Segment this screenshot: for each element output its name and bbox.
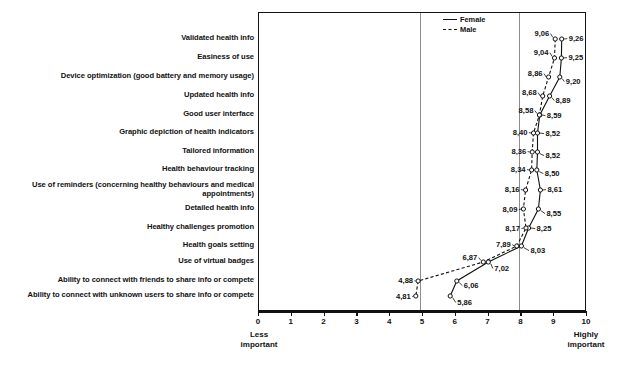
category-label: Updated health info — [184, 91, 254, 100]
x-tick-mark — [455, 311, 456, 316]
axis-endcap-left: Less important — [233, 330, 285, 349]
x-tick-mark — [389, 311, 390, 316]
category-label: Good user interface — [183, 110, 254, 119]
label-leader-line — [531, 228, 535, 229]
category-label: Healthy challenges promotion — [147, 223, 254, 232]
data-label: 8,89 — [556, 96, 571, 105]
data-label: 8,50 — [545, 169, 560, 178]
x-tick-label: 8 — [518, 317, 522, 326]
data-point — [560, 37, 564, 41]
data-label: 8,16 — [505, 185, 520, 194]
category-label: Use of virtual badges — [178, 257, 254, 266]
label-leader-line — [459, 283, 462, 286]
label-leader-line — [535, 111, 537, 114]
data-label: 8,86 — [528, 69, 543, 78]
data-point — [559, 56, 563, 60]
data-label: 4,81 — [396, 292, 412, 301]
data-point — [521, 207, 525, 211]
label-leader-line — [562, 79, 564, 82]
data-label: 6,06 — [464, 281, 479, 290]
series-overlay: 9,269,259,208,898,598,528,528,508,618,55… — [258, 12, 586, 311]
data-point — [531, 131, 535, 135]
category-label: Health goals setting — [183, 241, 254, 250]
data-label: 6,87 — [463, 253, 478, 262]
label-leader-line — [542, 115, 545, 116]
label-leader-line — [519, 209, 521, 210]
chart-root: Validated health infoEasiness of useDevi… — [0, 0, 617, 367]
data-label: 8,52 — [546, 151, 561, 160]
axis-endcap-right-line1: Highly — [558, 330, 614, 340]
x-tick-label: 9 — [551, 317, 555, 326]
data-label: 8,59 — [547, 111, 562, 120]
data-point — [515, 244, 519, 248]
axis-endcap-left-line1: Less — [233, 330, 285, 340]
data-point — [519, 244, 523, 248]
category-label: Validated health info — [181, 34, 254, 43]
x-tick-mark — [291, 311, 292, 316]
data-label: 9,04 — [534, 48, 550, 57]
category-label: Device optimization (good battery and me… — [61, 72, 254, 81]
x-tick-label: 2 — [321, 317, 325, 326]
data-point — [486, 260, 490, 264]
label-leader-line — [540, 133, 544, 134]
x-tick-label: 3 — [354, 317, 358, 326]
x-tick-label: 7 — [485, 317, 489, 326]
x-tick-mark — [422, 311, 423, 316]
label-leader-line — [491, 264, 493, 269]
data-label: 8,03 — [530, 246, 545, 255]
data-label: 4,88 — [398, 276, 413, 285]
x-tick-mark — [488, 311, 489, 316]
data-point — [537, 113, 541, 117]
x-tick-label: 5 — [420, 317, 424, 326]
axis-endcap-right: Highly important — [558, 330, 614, 349]
label-leader-line — [544, 74, 546, 77]
data-label: 8,58 — [519, 106, 534, 115]
category-label: Ability to connect with unknown users to… — [28, 291, 254, 300]
data-label: 5,86 — [457, 298, 472, 307]
data-point — [553, 37, 557, 41]
x-tick-label: 4 — [387, 317, 391, 326]
data-point — [558, 75, 562, 79]
label-leader-line — [539, 172, 543, 174]
data-point — [455, 279, 459, 283]
data-label: 9,25 — [568, 53, 584, 62]
label-leader-line — [512, 245, 514, 246]
data-label: 8,25 — [537, 224, 553, 233]
data-label: 9,20 — [566, 77, 581, 86]
data-label: 8,17 — [505, 224, 520, 233]
data-point — [416, 279, 420, 283]
data-point — [552, 56, 556, 60]
category-axis-labels: Validated health infoEasiness of useDevi… — [4, 0, 254, 310]
label-leader-line — [412, 296, 413, 297]
x-tick-label: 6 — [453, 317, 457, 326]
data-label: 9,26 — [569, 34, 584, 43]
x-tick-mark — [586, 311, 587, 316]
data-label: 8,34 — [511, 165, 527, 174]
category-label: Graphic depiction of health indicators — [119, 128, 254, 137]
x-tick-label: 1 — [289, 317, 293, 326]
data-point — [541, 94, 545, 98]
axis-endcap-right-line2: important — [558, 340, 614, 350]
x-tick-mark — [356, 311, 357, 316]
label-leader-line — [538, 93, 540, 96]
x-tick-label: 0 — [256, 317, 260, 326]
label-leader-line — [521, 228, 523, 229]
label-leader-line — [551, 34, 553, 38]
data-point — [538, 188, 542, 192]
label-leader-line — [540, 154, 544, 156]
data-point — [536, 207, 540, 211]
x-tick-mark — [520, 311, 521, 316]
x-tick-mark — [553, 311, 554, 316]
data-label: 7,02 — [494, 264, 509, 273]
data-point — [530, 150, 534, 154]
data-label: 8,68 — [522, 88, 537, 97]
label-leader-line — [550, 53, 552, 57]
label-leader-line — [479, 258, 481, 261]
data-label: 8,55 — [546, 209, 562, 218]
x-tick-mark — [324, 311, 325, 316]
label-leader-line — [453, 298, 456, 303]
data-label: 8,36 — [511, 147, 526, 156]
data-point — [448, 294, 452, 298]
data-point — [548, 94, 552, 98]
category-label: Tailored information — [182, 147, 254, 156]
